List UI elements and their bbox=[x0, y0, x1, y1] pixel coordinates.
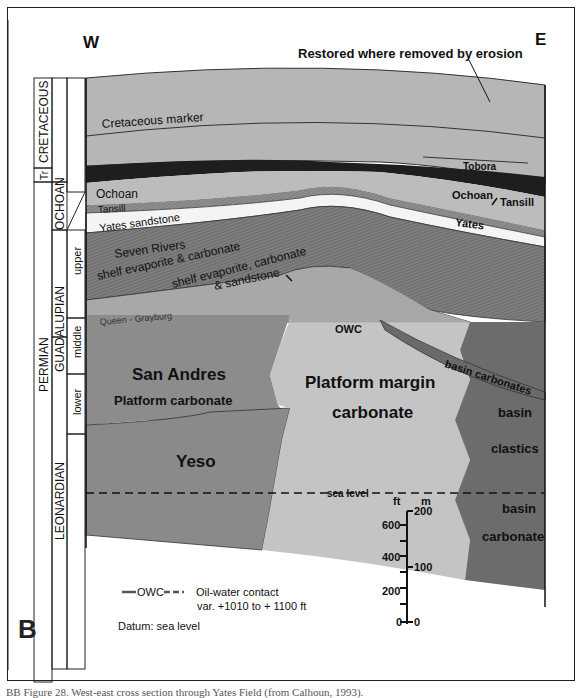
legend: OWC Oil-water contact var. +1010 to + 11… bbox=[118, 586, 306, 632]
scale-ft-400: 400 bbox=[382, 551, 400, 563]
label-tobora: Tobora bbox=[463, 161, 497, 172]
label-west: W bbox=[83, 33, 100, 52]
label-triassic: Tr bbox=[39, 170, 50, 180]
label-ochoan-west: Ochoan bbox=[96, 187, 138, 201]
label-upper: upper bbox=[71, 247, 83, 275]
label-san-andres: San Andres bbox=[132, 365, 226, 384]
scale-m-200: 200 bbox=[414, 505, 432, 517]
scale-m-100: 100 bbox=[414, 561, 432, 573]
scale-ft-0: 0 bbox=[396, 616, 402, 628]
label-ochoan-east: Ochoan bbox=[452, 189, 493, 201]
label-east: E bbox=[535, 30, 546, 49]
label-lower: lower bbox=[71, 388, 83, 415]
label-platform-margin-carbonate: carbonate bbox=[332, 403, 413, 422]
label-basin-carbonate-1: basin bbox=[502, 501, 536, 516]
label-sea-level: sea level bbox=[327, 488, 369, 499]
label-leonardian: LEONARDIAN bbox=[53, 462, 67, 540]
label-tansill-east: Tansill bbox=[500, 196, 534, 208]
column-labels: CRETACEOUS Tr PERMIAN OCHOAN GUADALUPIAN… bbox=[37, 81, 83, 540]
scale-ft-label: ft bbox=[393, 495, 401, 507]
panel-label: B bbox=[18, 614, 37, 644]
scale-ft-200: 200 bbox=[382, 585, 400, 597]
label-cretaceous: CRETACEOUS bbox=[37, 81, 51, 163]
legend-owc-desc: Oil-water contact bbox=[196, 586, 279, 598]
legend-owc-symbol: OWC bbox=[137, 586, 164, 598]
erosion-note: Restored where removed by erosion bbox=[298, 46, 523, 61]
legend-datum: Datum: sea level bbox=[118, 620, 200, 632]
label-guadalupian: GUADALUPIAN bbox=[53, 286, 67, 372]
label-permian: PERMIAN bbox=[37, 337, 51, 392]
scale-ft-600: 600 bbox=[382, 519, 400, 531]
label-ochoan: OCHOAN bbox=[53, 177, 67, 230]
figure-caption: BB Figure 28. West-east cross section th… bbox=[6, 686, 363, 698]
label-platform-carbonate: Platform carbonate bbox=[114, 393, 232, 408]
label-owc: OWC bbox=[335, 323, 362, 335]
unit-yeso bbox=[86, 408, 290, 550]
legend-owc-range: var. +1010 to + 1100 ft bbox=[197, 600, 306, 612]
label-basin-clastics-1: basin bbox=[498, 405, 532, 420]
label-tansill-west: Tansill bbox=[97, 202, 125, 215]
label-yeso: Yeso bbox=[176, 452, 216, 471]
label-basin-carbonate-2: carbonate bbox=[482, 529, 544, 544]
label-middle: middle bbox=[71, 326, 83, 358]
scale-m-0: 0 bbox=[414, 616, 420, 628]
cross-section-diagram: CRETACEOUS Tr PERMIAN OCHOAN GUADALUPIAN… bbox=[0, 0, 584, 698]
label-platform-margin: Platform margin bbox=[305, 373, 435, 392]
label-basin-clastics-2: clastics bbox=[491, 441, 539, 456]
